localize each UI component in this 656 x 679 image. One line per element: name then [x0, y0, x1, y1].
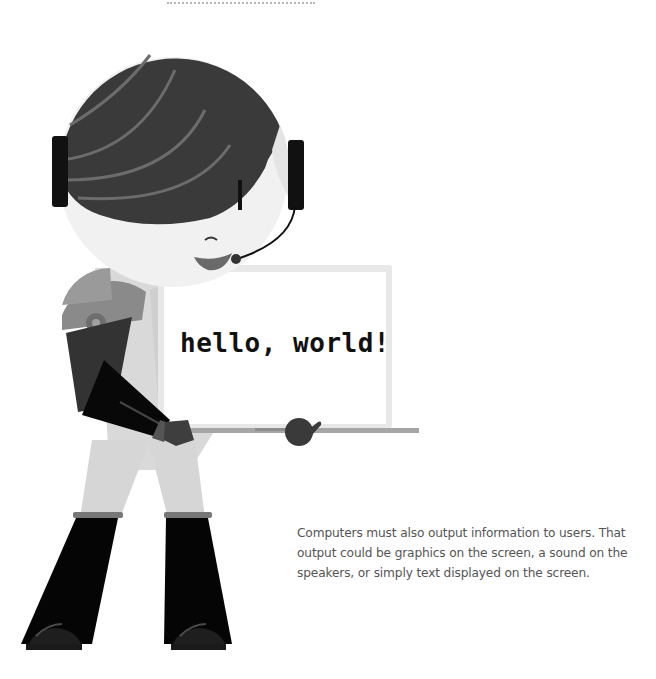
left-boot-cuff — [73, 512, 123, 518]
screen-hello-world-text: hello, world! — [180, 328, 390, 358]
caption-text: Computers must also output information t… — [297, 523, 642, 583]
right-boot-cuff — [164, 512, 212, 518]
legs-icon — [80, 440, 205, 518]
boots-icon — [21, 518, 232, 650]
